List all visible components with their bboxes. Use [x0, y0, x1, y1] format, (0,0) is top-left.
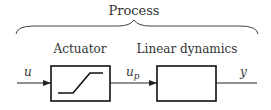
intermediate-signal-label: up [126, 65, 140, 81]
output-signal-label: y [239, 65, 247, 79]
input-signal-label: u [24, 65, 32, 79]
linear-dynamics-label: Linear dynamics [137, 42, 238, 56]
linear-dynamics-block [157, 66, 216, 101]
actuator-label: Actuator [53, 42, 107, 56]
block-diagram: Process Actuator Linear dynamics u up y [0, 0, 271, 110]
process-label: Process [108, 3, 159, 18]
process-brace [16, 20, 258, 34]
